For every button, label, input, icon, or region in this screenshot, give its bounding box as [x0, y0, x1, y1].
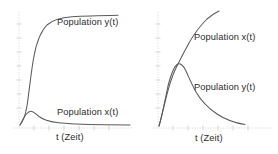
chart-panel-left: Population y(t) Population x(t) t (Zeit): [0, 0, 139, 154]
label-population-y-left: Population y(t): [57, 18, 118, 27]
curve-y-right: [159, 64, 245, 126]
label-population-x-left: Population x(t): [57, 108, 118, 117]
axis-label-time-left: t (Zeit): [56, 133, 84, 142]
chart-panel-right: Population x(t) Population y(t) t (Zeit): [139, 0, 278, 154]
axes-right: [153, 12, 271, 131]
population-dynamics-figure: Population y(t) Population x(t) t (Zeit): [0, 0, 278, 154]
label-population-y-right: Population y(t): [194, 83, 255, 92]
label-population-x-right: Population x(t): [194, 33, 255, 42]
axis-label-time-right: t (Zeit): [195, 134, 223, 143]
